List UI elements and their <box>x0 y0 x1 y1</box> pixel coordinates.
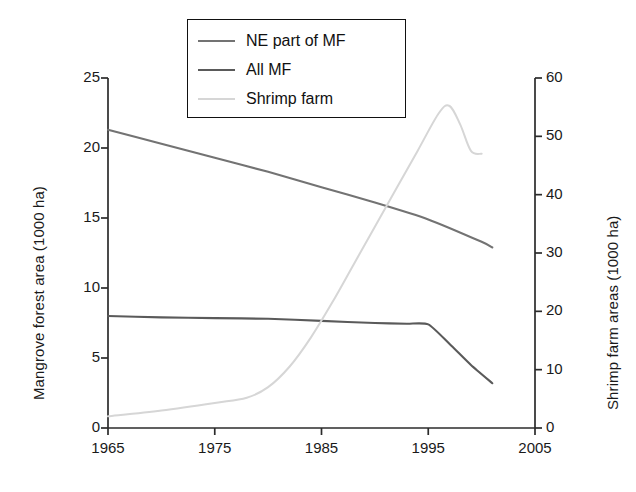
right-tick-label: 50 <box>546 126 582 143</box>
series-line-all-mf <box>108 316 492 383</box>
legend-line-swatch <box>198 69 235 71</box>
legend-item-shrimp-farm[interactable]: Shrimp farm <box>198 86 333 112</box>
left-axis-title: Mangrove forest area (1000 ha) <box>30 186 47 400</box>
left-tick-label: 10 <box>58 278 100 295</box>
x-axis-ticks <box>108 428 535 435</box>
legend-line-swatch <box>198 98 235 100</box>
right-axis-title: Shrimp farm areas (1000 ha) <box>604 216 621 410</box>
legend-item-label: Shrimp farm <box>246 91 333 107</box>
right-tick-label: 30 <box>546 243 582 260</box>
x-tick-label: 1975 <box>183 439 247 456</box>
legend-item-label: NE part of MF <box>246 33 346 49</box>
legend: NE part of MFAll MFShrimp farm <box>187 19 406 118</box>
right-tick-label: 10 <box>546 360 582 377</box>
x-tick-label: 1965 <box>76 439 140 456</box>
right-tick-label: 40 <box>546 185 582 202</box>
legend-line-swatch <box>198 40 235 42</box>
left-tick-label: 20 <box>58 138 100 155</box>
left-tick-label: 15 <box>58 208 100 225</box>
left-tick-label: 0 <box>58 418 100 435</box>
x-tick-label: 2005 <box>503 439 567 456</box>
chart-figure: Mangrove forest area (1000 ha) Shrimp fa… <box>0 0 636 492</box>
data-series-group <box>108 105 492 416</box>
legend-item-all-mf[interactable]: All MF <box>198 57 291 83</box>
left-axis-ticks <box>101 78 108 428</box>
series-line-ne-part-of-mf <box>108 130 492 248</box>
right-axis-ticks <box>535 78 542 428</box>
x-tick-label: 1995 <box>396 439 460 456</box>
series-line-shrimp-farm <box>108 105 482 416</box>
legend-item-ne-part-of-mf[interactable]: NE part of MF <box>198 28 346 54</box>
legend-item-label: All MF <box>246 62 291 78</box>
left-tick-label: 5 <box>58 348 100 365</box>
right-tick-label: 0 <box>546 418 582 435</box>
right-tick-label: 60 <box>546 68 582 85</box>
left-tick-label: 25 <box>58 68 100 85</box>
x-tick-label: 1985 <box>290 439 354 456</box>
right-tick-label: 20 <box>546 301 582 318</box>
axis-lines <box>108 78 535 428</box>
